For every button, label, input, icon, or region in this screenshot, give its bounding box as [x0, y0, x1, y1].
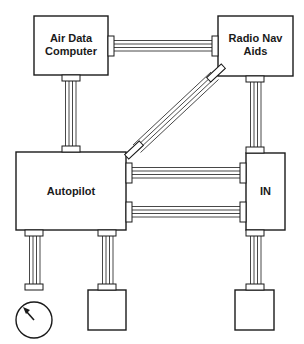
- bus-autopilot-in-upper: [132, 168, 240, 179]
- bus-autopilot-gauge: [30, 236, 41, 284]
- bus-radionav-in: [251, 82, 262, 147]
- in-label: IN: [246, 185, 285, 198]
- label-line: Aids: [218, 45, 293, 58]
- radio-nav-aids-label: Radio Nav Aids: [218, 32, 293, 58]
- bus-autopilot-in-lower: [132, 207, 240, 218]
- bus-autopilot-output: [103, 236, 114, 284]
- in-output-box: [235, 290, 274, 330]
- bus-in-output: [251, 236, 262, 284]
- autopilot-label: Autopilot: [16, 185, 126, 198]
- autopilot-output-box: [88, 290, 126, 330]
- bus-adc-radionav: [114, 40, 212, 52]
- label-line: Computer: [34, 45, 108, 58]
- bus-adc-autopilot: [66, 81, 77, 146]
- label-line: Radio Nav: [218, 32, 293, 45]
- label-line: Air Data: [34, 32, 108, 45]
- bus-radionav-autopilot: [133, 72, 219, 153]
- air-data-computer-label: Air Data Computer: [34, 32, 108, 58]
